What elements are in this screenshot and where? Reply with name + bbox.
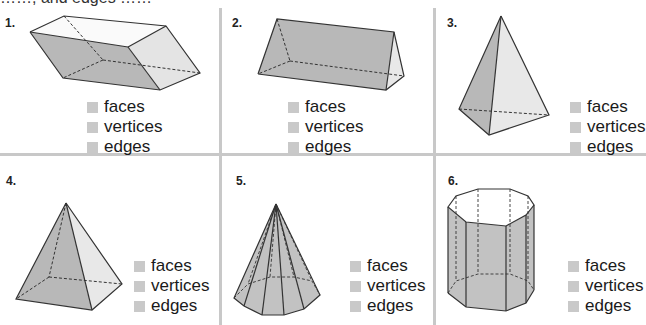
faces-label: faces — [587, 97, 628, 117]
faces-label: faces — [585, 256, 626, 276]
vertices-checkbox[interactable] — [350, 281, 361, 292]
faces-checkbox[interactable] — [134, 261, 145, 272]
answer-legend: faces vertices edges — [134, 256, 210, 316]
edges-checkbox[interactable] — [350, 301, 361, 312]
vertices-checkbox[interactable] — [568, 281, 579, 292]
problem-3: 3. faces vertices edges — [436, 0, 646, 153]
faces-checkbox[interactable] — [350, 261, 361, 272]
problem-2: 2. faces vertices edges — [222, 0, 433, 153]
answer-legend: faces vertices edges — [87, 97, 163, 157]
edges-checkbox[interactable] — [568, 301, 579, 312]
edges-checkbox[interactable] — [87, 142, 98, 153]
faces-label: faces — [305, 97, 346, 117]
vertices-label: vertices — [367, 276, 426, 296]
edges-label: edges — [587, 137, 633, 157]
problem-4: 4. faces vertices edges — [0, 156, 219, 325]
vertices-checkbox[interactable] — [134, 281, 145, 292]
answer-legend: faces vertices edges — [288, 97, 364, 157]
problem-5: 5. faces vertices edges — [222, 156, 433, 325]
vertices-checkbox[interactable] — [570, 122, 581, 133]
problem-1: 1. faces vertices edges — [0, 0, 219, 153]
triangular-prism-figure — [222, 0, 433, 100]
faces-checkbox[interactable] — [570, 102, 581, 113]
edges-checkbox[interactable] — [570, 142, 581, 153]
vertices-checkbox[interactable] — [87, 122, 98, 133]
faces-checkbox[interactable] — [288, 102, 299, 113]
edges-label: edges — [151, 296, 197, 316]
vertices-label: vertices — [587, 117, 646, 137]
faces-label: faces — [104, 97, 145, 117]
edges-checkbox[interactable] — [288, 142, 299, 153]
vertices-label: vertices — [305, 117, 364, 137]
answer-legend: faces vertices edges — [568, 256, 644, 316]
faces-label: faces — [151, 256, 192, 276]
faces-checkbox[interactable] — [87, 102, 98, 113]
faces-label: faces — [367, 256, 408, 276]
answer-legend: faces vertices edges — [350, 256, 426, 316]
vertices-label: vertices — [585, 276, 644, 296]
edges-label: edges — [104, 137, 150, 157]
vertices-label: vertices — [104, 117, 163, 137]
edges-label: edges — [305, 137, 351, 157]
faces-checkbox[interactable] — [568, 261, 579, 272]
vertices-checkbox[interactable] — [288, 122, 299, 133]
edges-label: edges — [367, 296, 413, 316]
edges-checkbox[interactable] — [134, 301, 145, 312]
rectangular-prism-figure — [0, 0, 219, 100]
answer-legend: faces vertices edges — [570, 97, 646, 157]
edges-label: edges — [585, 296, 631, 316]
vertices-label: vertices — [151, 276, 210, 296]
problem-6: 6. faces vertices edges — [436, 156, 646, 325]
